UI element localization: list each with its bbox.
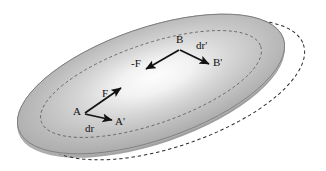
point-A: A	[73, 106, 81, 117]
point-A-prime: A'	[115, 116, 125, 127]
label-displacement-dr: dr	[85, 123, 94, 134]
label-force-F: F	[102, 88, 108, 99]
label-displacement-dr-prime: dr'	[196, 40, 207, 51]
figure-canvas: A A' B B' F dr -F dr'	[0, 0, 326, 171]
point-B: B	[176, 34, 183, 45]
point-B-prime: B'	[213, 57, 222, 68]
label-force-minus-F: -F	[131, 58, 141, 69]
diagram-svg	[0, 0, 326, 171]
